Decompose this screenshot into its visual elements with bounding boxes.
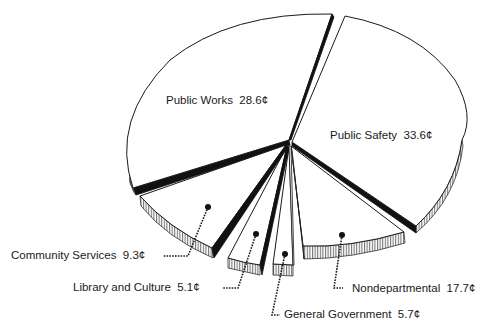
label-public-works: Public Works 28.6¢ xyxy=(166,94,268,106)
label-nondepartmental: Nondepartmental 17.7¢ xyxy=(352,282,475,294)
label-general-government: General Government 5.7¢ xyxy=(284,308,420,320)
label-public-safety: Public Safety 33.6¢ xyxy=(330,129,432,141)
label-library-culture: Library and Culture 5.1¢ xyxy=(73,281,200,293)
label-community-services: Community Services 9.3¢ xyxy=(11,249,145,261)
pie-chart: Public Works 28.6¢ Public Safety 33.6¢ C… xyxy=(0,0,492,326)
